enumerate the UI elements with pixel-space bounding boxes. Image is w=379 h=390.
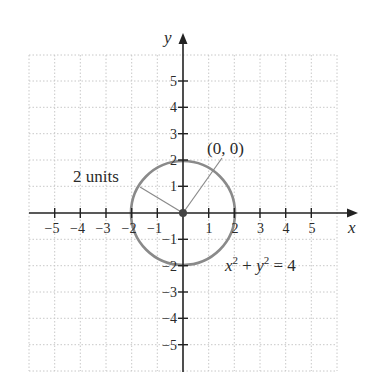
x-tick-label: 4 xyxy=(283,221,290,236)
center-leader-line xyxy=(183,158,222,213)
x-tick-labels: −5 −4 −3 −2 −1 1 2 3 4 5 xyxy=(45,221,316,236)
x-axis-arrow-icon xyxy=(347,209,358,218)
x-tick-label: −4 xyxy=(70,221,85,236)
y-tick-label: 3 xyxy=(170,127,177,142)
x-tick-label: 5 xyxy=(309,221,316,236)
x-axis-label: x xyxy=(347,218,356,237)
y-axis-arrow-icon xyxy=(179,33,188,44)
x-tick-label: 1 xyxy=(206,221,213,236)
y-tick-label: −5 xyxy=(162,338,177,353)
coordinate-plane-diagram: −5 −4 −3 −2 −1 1 2 3 4 5 5 4 3 2 1 −1 −2… xyxy=(0,0,379,390)
y-tick-label: −1 xyxy=(162,232,177,247)
circle-equation: x2 + y2 = 4 xyxy=(224,254,296,275)
center-label: (0, 0) xyxy=(207,139,244,158)
equation-y: y xyxy=(254,256,264,275)
y-tick-label: −2 xyxy=(162,259,177,274)
y-tick-label: −3 xyxy=(162,285,177,300)
y-axis-label: y xyxy=(162,28,172,47)
origin-point xyxy=(179,209,187,217)
x-tick-label: −5 xyxy=(45,221,60,236)
equation-equals: = 4 xyxy=(269,256,296,275)
x-tick-label: −2 xyxy=(122,221,137,236)
x-tick-label: 2 xyxy=(232,221,239,236)
x-tick-label: −3 xyxy=(96,221,111,236)
x-tick-label: 3 xyxy=(257,221,264,236)
y-tick-label: 4 xyxy=(170,100,177,115)
x-tick-label: −1 xyxy=(147,221,162,236)
y-tick-label: 1 xyxy=(170,179,177,194)
y-tick-label: 5 xyxy=(170,74,177,89)
radius-label: 2 units xyxy=(73,167,119,186)
equation-plus: + xyxy=(238,256,256,275)
y-tick-label: −4 xyxy=(162,311,177,326)
y-tick-label: 2 xyxy=(170,153,177,168)
